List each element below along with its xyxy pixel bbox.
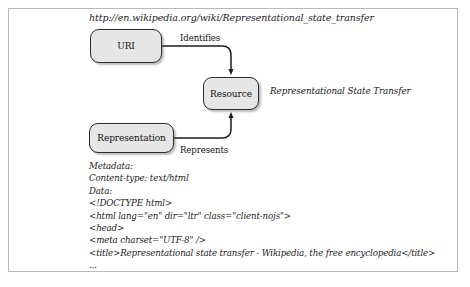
payload-line: <head>	[89, 222, 435, 234]
edge-label-represents: Represents	[180, 145, 228, 155]
payload-line: <meta charset="UTF-8" />	[89, 234, 435, 246]
resource-url-label: http://en.wikipedia.org/wiki/Representat…	[89, 12, 374, 23]
node-representation[interactable]: Representation	[89, 123, 174, 153]
node-uri[interactable]: URI	[90, 29, 162, 63]
rest-annotation-label: Representational State Transfer	[270, 86, 411, 96]
payload-line: Metadata:	[89, 160, 435, 172]
edge-label-identifies: Identifies	[180, 33, 220, 43]
payload-line: <!DOCTYPE html>	[89, 197, 435, 209]
rest-diagram-figure: http://en.wikipedia.org/wiki/Representat…	[0, 0, 470, 287]
representation-payload: Metadata: Content-type: text/html Data: …	[89, 160, 435, 272]
payload-line: Content-type: text/html	[89, 172, 435, 184]
payload-line: ...	[89, 259, 435, 271]
node-uri-label: URI	[117, 41, 135, 51]
node-resource[interactable]: Resource	[203, 77, 259, 110]
payload-line: <title>Representational state transfer -…	[89, 247, 435, 259]
payload-line: Data:	[89, 185, 435, 197]
payload-line: <html lang="en" dir="ltr" class="client-…	[89, 210, 435, 222]
node-resource-label: Resource	[210, 89, 252, 99]
node-representation-label: Representation	[97, 133, 166, 143]
